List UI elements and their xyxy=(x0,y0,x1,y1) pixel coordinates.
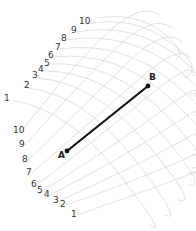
lower-label-10: 10 xyxy=(13,125,25,135)
point-b-label: B xyxy=(149,72,156,82)
point-a-label: A xyxy=(58,150,65,160)
lower-label-8: 8 xyxy=(22,154,28,164)
warped-grid xyxy=(12,11,196,228)
upper-label-10: 10 xyxy=(79,16,91,26)
lower-label-5: 5 xyxy=(37,185,43,195)
upper-label-7: 7 xyxy=(55,42,61,52)
segment-a-b xyxy=(67,86,148,151)
lower-label-6: 6 xyxy=(31,179,37,189)
upper-axis-labels: 1 2 3 4 5 6 7 8 9 10 xyxy=(4,16,91,103)
lower-label-7: 7 xyxy=(26,167,32,177)
upper-label-3: 3 xyxy=(32,70,38,80)
upper-label-1: 1 xyxy=(4,93,10,103)
upper-label-2: 2 xyxy=(24,80,30,90)
point-b xyxy=(146,84,151,89)
lower-label-9: 9 xyxy=(19,139,25,149)
upper-label-9: 9 xyxy=(71,25,77,35)
lower-label-3: 3 xyxy=(53,195,59,205)
lower-label-4: 4 xyxy=(44,189,50,199)
lower-label-1: 1 xyxy=(71,209,77,219)
upper-label-6: 6 xyxy=(48,50,54,60)
upper-label-8: 8 xyxy=(61,33,67,43)
point-a xyxy=(65,149,70,154)
lower-label-2: 2 xyxy=(60,199,66,209)
warped-grid-diagram: 1 2 3 4 5 6 7 8 9 10 1 2 3 4 5 6 7 8 9 1… xyxy=(0,0,196,231)
